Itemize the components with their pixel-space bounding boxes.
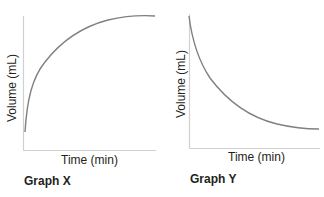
graph-y-xlabel: Time (min) xyxy=(228,150,285,164)
graph-y-caption: Graph Y xyxy=(190,172,236,186)
graph-x-panel: Volume (mL) Time (min) Graph X xyxy=(0,0,162,197)
graph-x-ylabel: Volume (mL) xyxy=(5,54,19,122)
graph-x-plot xyxy=(0,0,162,197)
graph-y-ylabel: Volume (mL) xyxy=(174,50,188,118)
graph-x-xlabel: Time (min) xyxy=(61,153,118,167)
graph-x-caption: Graph X xyxy=(24,174,71,188)
graph-y-curve xyxy=(189,16,319,129)
graph-x-curve xyxy=(25,16,155,132)
graph-y-panel: Volume (mL) Time (min) Graph Y xyxy=(162,0,324,197)
